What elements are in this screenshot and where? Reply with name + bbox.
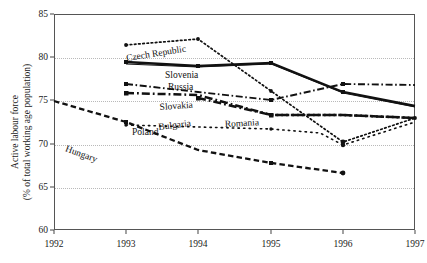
series-markers-romania (196, 96, 201, 101)
chart-figure: Active labour force (% of total working … (0, 0, 427, 263)
series-markers-bulgaria (124, 91, 274, 118)
series-label-russia: Russia (168, 82, 193, 92)
data-series-layer (0, 0, 427, 263)
series-label-poland: Poland (132, 127, 158, 137)
series-label-romania: Romania (224, 117, 259, 129)
series-markers-slovakia (124, 82, 345, 102)
series-label-slovenia: Slovenia (165, 70, 198, 80)
